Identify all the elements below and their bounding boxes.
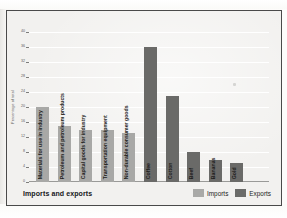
- bar-slot: Materials for use in industry: [33, 32, 53, 182]
- bar-category-label: Cotton: [167, 162, 172, 179]
- bar: [144, 47, 157, 182]
- y-axis-tick-label: 4: [23, 165, 25, 169]
- bar-slot: Cotton: [163, 32, 183, 182]
- y-axis-tick-label: 8: [23, 150, 25, 154]
- y-axis-tick-label: 16: [21, 120, 25, 124]
- bar-category-label: Gold: [232, 167, 237, 179]
- y-axis-title: Percentage of total: [11, 90, 15, 124]
- bars-group: Materials for use in industryPetroleum a…: [29, 32, 269, 182]
- legend-swatch-exports-icon: [235, 189, 246, 197]
- chart-title: Imports and exports: [23, 190, 92, 197]
- scan-artifact-speck: [233, 83, 236, 86]
- legend-swatch-imports-icon: [193, 189, 204, 197]
- bar-slot: Bananas: [206, 32, 226, 182]
- bar-slot: Coffee: [141, 32, 161, 182]
- chart-screenshot: Percentage of total 0481216202428323640 …: [0, 0, 287, 218]
- y-axis-tick-mark: [26, 182, 29, 183]
- legend-item-exports: Exports: [235, 189, 271, 197]
- y-axis-tick-label: 32: [21, 60, 25, 64]
- y-axis-tick-label: 0: [23, 180, 25, 184]
- y-axis-tick-label: 28: [21, 75, 25, 79]
- bar-category-label: Coffee: [146, 163, 151, 179]
- y-axis-tick-label: 24: [21, 90, 25, 94]
- y-axis-tick-label: 36: [21, 45, 25, 49]
- y-axis-tick-label: 12: [21, 135, 25, 139]
- y-axis-tick-label: 20: [21, 105, 25, 109]
- bar-category-label: Petroleum and petroleum products: [59, 93, 64, 179]
- bar-slot: Beef: [184, 32, 204, 182]
- bar-slot: Transportation equipment: [98, 32, 118, 182]
- bar-slot: Petroleum and petroleum products: [55, 32, 75, 182]
- chart-frame: Percentage of total 0481216202428323640 …: [6, 10, 282, 206]
- bar-slot: Gold: [227, 32, 247, 182]
- bar-category-label: Materials for use in industry: [38, 110, 43, 179]
- y-axis-tick-label: 40: [21, 30, 25, 34]
- bar-category-label: Bananas: [211, 157, 216, 179]
- legend-item-imports: Imports: [193, 189, 228, 197]
- bar-category-label: Capital goods for industry: [81, 114, 86, 179]
- bar-category-label: Beef: [189, 168, 194, 179]
- page-edge-top: [0, 0, 287, 9]
- plot-area: 0481216202428323640 Materials for use in…: [29, 32, 269, 182]
- page-edge-bottom: [0, 204, 287, 218]
- bar-category-label: Non-durable consumer goods: [124, 105, 129, 179]
- bar-slot: Non-durable consumer goods: [119, 32, 139, 182]
- legend-label-imports: Imports: [207, 190, 228, 197]
- bar-slot: Capital goods for industry: [76, 32, 96, 182]
- legend-label-exports: Exports: [249, 190, 271, 197]
- chart-legend: Imports Exports: [193, 189, 271, 197]
- bar-category-label: Transportation equipment: [103, 115, 108, 179]
